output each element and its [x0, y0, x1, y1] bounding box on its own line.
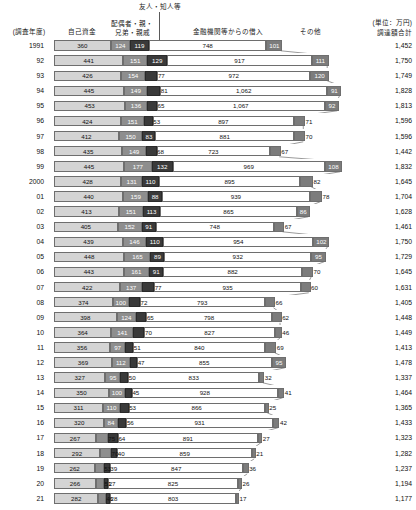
stacked-bar: 3641417082746 [54, 327, 282, 337]
row-year-label: 06 [0, 264, 48, 279]
bar-segment-friends: 72 [129, 297, 140, 307]
row-year-label: 98 [0, 144, 48, 159]
bar-segment-bank-loan: 833 [128, 372, 259, 382]
bar-segment-own-funds: 292 [54, 448, 100, 458]
stacked-bar: 3111105386625 [54, 403, 269, 413]
bar-segment-own-funds: 413 [54, 206, 119, 216]
segment-value: 66 [276, 299, 283, 306]
segment-value: 110 [146, 178, 156, 185]
bar-segment-relatives: 84 [104, 418, 117, 428]
row-year-label: 96 [0, 113, 48, 128]
bar-segment-own-funds: 428 [54, 176, 121, 186]
bar-segment-own-funds: 424 [54, 116, 121, 126]
bar-segment-other: 62 [272, 312, 282, 322]
bar-segment-other: 70 [302, 267, 313, 277]
segment-value: 855 [199, 359, 209, 366]
segment-value: 723 [208, 148, 218, 155]
bar-segment-friends: 132 [152, 161, 173, 171]
stacked-bar: 292704085921 [54, 448, 256, 458]
segment-value: 935 [222, 284, 232, 291]
bar-segment-friends: 53 [120, 403, 128, 413]
segment-value: 95 [315, 253, 322, 260]
segment-value: 748 [210, 223, 220, 230]
segment-value: 65 [157, 102, 164, 109]
segment-value: 82 [313, 178, 320, 185]
segment-value: 151 [127, 118, 137, 125]
bar-segment-relatives: 53 [95, 463, 103, 473]
row-year-label: 12 [0, 355, 48, 370]
row-year-label: 95 [0, 98, 48, 113]
segment-value: 954 [233, 238, 243, 245]
segment-value: 91 [145, 223, 152, 230]
chart-row: 02413151113865861,628 [0, 204, 416, 219]
bar-segment-bank-loan: 882 [163, 267, 302, 277]
segment-value: 67 [281, 148, 288, 155]
row-total: 1,832 [350, 159, 412, 174]
segment-value: 360 [77, 42, 87, 49]
chart-row: 182927040859211,282 [0, 446, 416, 461]
segment-value: 445 [84, 163, 94, 170]
row-total: 1,442 [350, 144, 412, 159]
row-year-label: 04 [0, 234, 48, 249]
bar-segment-own-funds: 439 [54, 237, 123, 247]
bar-segment-own-funds: 453 [54, 101, 125, 111]
segment-value: 50 [129, 374, 136, 381]
stacked-bar: 282462880317 [54, 493, 239, 503]
bar-segment-bank-loan: 897 [153, 116, 294, 126]
segment-value: 39 [110, 465, 117, 472]
chart-row: 93426154779721201,749 [0, 68, 416, 83]
bar-segment-friends: 81 [147, 86, 160, 96]
bar-segment-own-funds: 435 [54, 146, 122, 156]
bar-segment-own-funds: 364 [54, 327, 111, 337]
segment-value: 891 [183, 435, 193, 442]
row-year-label: 21 [0, 491, 48, 506]
row-year-label: 09 [0, 310, 48, 325]
bar-segment-relatives: 152 [118, 222, 142, 232]
row-total: 1,405 [350, 295, 412, 310]
segment-value: 151 [126, 208, 136, 215]
chart-row: 2000428131110895821,645 [0, 174, 416, 189]
segment-value: 62 [282, 314, 289, 321]
bar-segment-own-funds: 356 [54, 342, 110, 352]
column-header-relatives-line2: 兄弟・親戚 [104, 28, 160, 37]
segment-value: 327 [75, 374, 85, 381]
stacked-bar: 445149811,06291 [54, 86, 341, 96]
segment-value: 17 [240, 495, 247, 502]
bar-segment-relatives: 70 [100, 448, 111, 458]
bar-segment-relatives: 150 [119, 131, 143, 141]
chart-row: 9642415153897711,596 [0, 113, 416, 128]
segment-value: 77 [158, 72, 165, 79]
row-year-label: 18 [0, 446, 48, 461]
bar-segment-friends: 51 [125, 342, 133, 352]
segment-value: 25 [269, 404, 276, 411]
row-year-label: 1991 [0, 38, 48, 53]
chart-row: 0340515291748671,461 [0, 219, 416, 234]
bar-segment-friends: 77 [142, 282, 154, 292]
row-total: 1,194 [350, 476, 412, 491]
chart-row: 163208456931421,433 [0, 415, 416, 430]
row-total: 1,282 [350, 446, 412, 461]
bar-segment-friends: 68 [146, 146, 157, 156]
bar-segment-friends: 113 [143, 206, 161, 216]
row-total: 1,337 [350, 370, 412, 385]
segment-value: 748 [202, 42, 212, 49]
column-header-bank-loan: 金融機関等からの借入 [168, 28, 288, 36]
segment-value: 282 [71, 495, 81, 502]
stacked-bar: 266512782526 [54, 478, 242, 488]
bar-segment-other: 71 [294, 116, 305, 126]
row-total: 1,750 [350, 53, 412, 68]
segment-value: 108 [328, 163, 338, 170]
segment-value: 70 [145, 329, 152, 336]
chart-row: 113569751840691,413 [0, 340, 416, 355]
row-total: 1,237 [350, 461, 412, 476]
row-year-label: 11 [0, 340, 48, 355]
chart-row: 133279550833321,337 [0, 370, 416, 385]
stacked-bar: 3981246579862 [54, 312, 282, 322]
segment-value: 68 [157, 148, 164, 155]
bar-segment-own-funds: 282 [54, 493, 98, 503]
row-year-label: 93 [0, 68, 48, 83]
chart-row: 1236911247855951,478 [0, 355, 416, 370]
chart-rows: 19913601241197481011,4529244115112991711… [0, 38, 416, 506]
segment-value: 932 [233, 253, 243, 260]
segment-value: 146 [129, 238, 139, 245]
